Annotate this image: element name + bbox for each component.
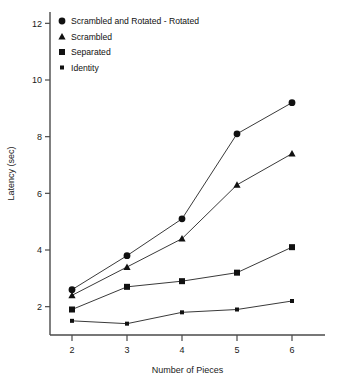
y-tick-label: 4 bbox=[37, 245, 42, 255]
legend-label: Scrambled and Rotated - Rotated bbox=[71, 16, 199, 26]
y-tick-label: 10 bbox=[32, 75, 42, 85]
data-point-triangle bbox=[123, 263, 130, 269]
x-axis-title: Number of Pieces bbox=[152, 365, 224, 375]
x-tick-label: 5 bbox=[234, 345, 239, 355]
data-point-triangle bbox=[233, 181, 240, 187]
x-tick-label: 6 bbox=[289, 345, 294, 355]
series-line-circle bbox=[72, 103, 292, 290]
legend-marker-triangle bbox=[58, 33, 65, 39]
y-tick-label: 6 bbox=[37, 189, 42, 199]
data-point-circle bbox=[234, 130, 241, 137]
legend-marker-circle bbox=[59, 18, 66, 25]
chart-canvas: 2468101223456Number of PiecesLatency (se… bbox=[0, 0, 337, 392]
latency-line-chart: 2468101223456Number of PiecesLatency (se… bbox=[0, 0, 337, 392]
data-point-star bbox=[70, 319, 74, 323]
data-point-triangle bbox=[68, 292, 75, 298]
y-tick-label: 8 bbox=[37, 132, 42, 142]
y-axis-title: Latency (sec) bbox=[6, 146, 16, 200]
data-point-star bbox=[235, 308, 239, 312]
x-tick-label: 4 bbox=[179, 345, 184, 355]
series-line-triangle bbox=[72, 154, 292, 296]
data-point-star bbox=[125, 322, 129, 326]
data-point-circle bbox=[124, 252, 131, 259]
data-point-square bbox=[179, 278, 185, 284]
x-tick-label: 2 bbox=[69, 345, 74, 355]
data-point-square bbox=[124, 284, 130, 290]
y-tick-label: 12 bbox=[32, 19, 42, 29]
data-point-star bbox=[180, 310, 184, 314]
data-point-star bbox=[290, 299, 294, 303]
legend-marker-square bbox=[59, 49, 65, 55]
legend-label: Identity bbox=[71, 63, 99, 73]
data-point-square bbox=[234, 270, 240, 276]
data-point-square bbox=[289, 244, 295, 250]
legend-label: Scrambled bbox=[71, 32, 112, 42]
legend-marker-star bbox=[60, 66, 64, 70]
data-point-square bbox=[69, 307, 75, 313]
data-point-circle bbox=[179, 215, 186, 222]
data-point-circle bbox=[289, 99, 296, 106]
x-tick-label: 3 bbox=[124, 345, 129, 355]
data-point-triangle bbox=[288, 150, 295, 156]
legend-label: Separated bbox=[71, 47, 111, 57]
y-tick-label: 2 bbox=[37, 302, 42, 312]
